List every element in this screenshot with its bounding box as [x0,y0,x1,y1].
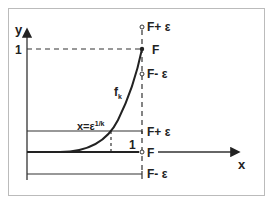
upper-F-label: F [152,43,159,57]
upper-F-plus-epsilon-label: F+ ε [147,20,171,34]
x-tick-one-label: 1 [129,138,136,152]
diagram-frame [9,9,265,196]
convergence-diagram: y 1 1 x fk x=ε1/k F+ ε F F- ε F+ ε F F- … [0,0,269,204]
lower-F-minus-epsilon-label: F- ε [147,167,168,181]
upper-F-minus-epsilon-label: F- ε [147,67,168,81]
lower-F-plus-epsilon-label: F+ ε [147,125,171,139]
y-axis-label: y [15,22,23,37]
y-tick-one-label: 1 [15,43,22,57]
open-point-F-plus-upper [140,25,144,29]
x-axis-label: x [238,157,246,172]
lower-F-label: F [147,146,154,160]
open-point-F-lower [140,150,144,154]
open-point-F-minus-upper [140,72,144,76]
